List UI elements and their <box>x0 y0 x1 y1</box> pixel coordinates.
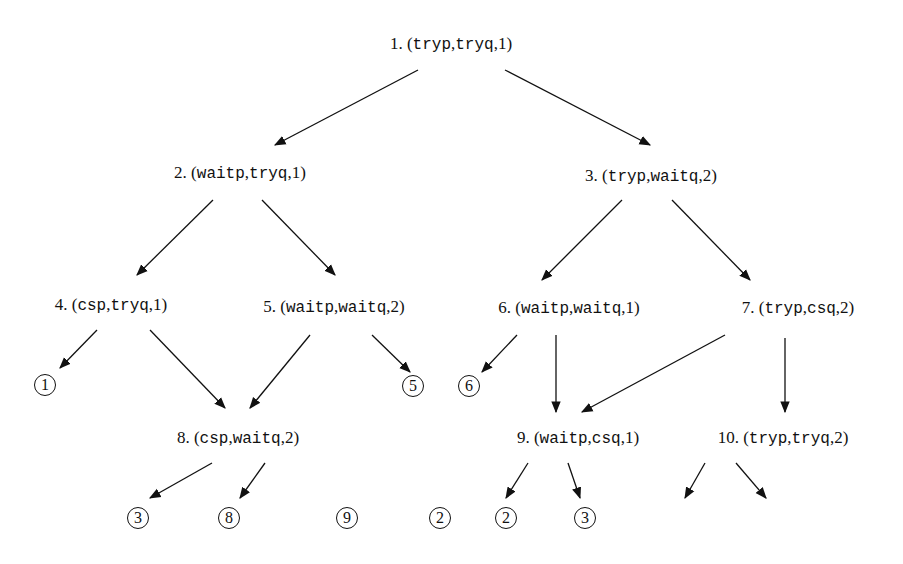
state-node-10: 10. (tryp,tryq,2) <box>718 428 849 448</box>
edge-arrow <box>250 335 310 408</box>
edge-arrow <box>542 200 622 280</box>
back-reference-circle: 6 <box>458 375 480 397</box>
back-reference-circle: 2 <box>495 507 517 529</box>
p-state: tryp <box>764 300 802 318</box>
back-reference-circle: 8 <box>218 507 240 529</box>
turn-value: ,2) <box>386 297 404 316</box>
state-node-1: 1. (tryp,tryq,1) <box>390 34 512 54</box>
back-reference-circle: 5 <box>402 375 424 397</box>
node-number: 5. ( <box>263 297 286 316</box>
state-node-8: 8. (csp,waitq,2) <box>177 428 299 448</box>
edge-arrow <box>736 463 766 498</box>
q-state: waitq <box>650 168 698 186</box>
edge-arrow <box>262 200 335 275</box>
state-node-9: 9. (waitp,csq,1) <box>517 428 639 448</box>
q-state: csq <box>807 300 836 318</box>
node-number: 10. ( <box>718 428 749 447</box>
turn-value: ,2) <box>281 428 299 447</box>
p-state: waitp <box>521 300 569 318</box>
diagram-canvas: 1. (tryp,tryq,1)2. (waitp,tryq,1)3. (try… <box>0 0 903 564</box>
node-number: 9. ( <box>517 428 540 447</box>
state-node-6: 6. (waitp,waitq,1) <box>498 298 639 318</box>
edge-arrow <box>672 200 750 280</box>
state-node-7: 7. (tryp,csq,2) <box>742 298 855 318</box>
turn-value: ,2) <box>836 298 854 317</box>
q-state: waitq <box>338 299 386 317</box>
edge-arrow <box>137 200 213 275</box>
edge-arrow <box>240 463 265 498</box>
edge-arrow <box>60 330 97 368</box>
back-reference-circle: 3 <box>127 507 149 529</box>
q-state: tryq <box>249 165 287 183</box>
q-state: csq <box>592 430 621 448</box>
turn-value: ,1) <box>621 298 639 317</box>
q-state: waitq <box>573 300 621 318</box>
edge-arrow <box>685 463 705 498</box>
turn-value: ,1) <box>149 295 167 314</box>
edge-arrow <box>150 330 225 408</box>
turn-value: ,1) <box>287 163 305 182</box>
p-state: waitp <box>540 430 588 448</box>
p-state: waitp <box>197 165 245 183</box>
q-state: waitq <box>233 430 281 448</box>
turn-value: ,1) <box>621 428 639 447</box>
node-number: 1. ( <box>390 34 413 53</box>
p-state: tryp <box>608 168 646 186</box>
node-number: 6. ( <box>498 298 521 317</box>
node-number: 2. ( <box>174 163 197 182</box>
edge-arrow <box>150 463 212 498</box>
edge-arrow <box>482 335 517 372</box>
p-state: csp <box>200 430 229 448</box>
p-state: csp <box>77 297 106 315</box>
node-number: 8. ( <box>177 428 200 447</box>
p-state: tryp <box>749 430 787 448</box>
state-node-2: 2. (waitp,tryq,1) <box>174 163 306 183</box>
node-number: 4. ( <box>55 295 78 314</box>
edge-arrow <box>372 335 410 372</box>
turn-value: ,1) <box>494 34 512 53</box>
node-number: 3. ( <box>585 166 608 185</box>
back-reference-circle: 3 <box>574 507 596 529</box>
edges-layer <box>0 0 903 564</box>
edge-arrow <box>506 463 528 498</box>
q-state: tryq <box>792 430 830 448</box>
back-reference-circle: 9 <box>336 507 358 529</box>
edge-arrow <box>505 70 650 145</box>
edge-arrow <box>275 70 418 145</box>
state-node-5: 5. (waitp,waitq,2) <box>263 297 404 317</box>
state-node-4: 4. (csp,tryq,1) <box>55 295 168 315</box>
turn-value: ,2) <box>830 428 848 447</box>
node-number: 7. ( <box>742 298 765 317</box>
q-state: tryq <box>110 297 148 315</box>
p-state: tryp <box>413 36 451 54</box>
p-state: waitp <box>286 299 334 317</box>
back-reference-circle: 1 <box>34 374 56 396</box>
edge-arrow <box>568 463 580 498</box>
edge-arrow <box>582 335 725 412</box>
back-reference-circle: 2 <box>429 507 451 529</box>
turn-value: ,2) <box>698 166 716 185</box>
q-state: tryq <box>455 36 493 54</box>
state-node-3: 3. (tryp,waitq,2) <box>585 166 717 186</box>
